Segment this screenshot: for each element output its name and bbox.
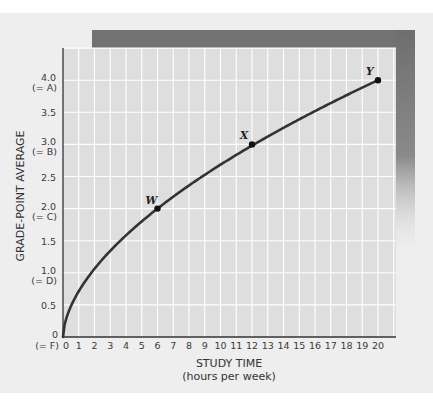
y-tick-label: 1.5 (41, 236, 56, 247)
point-label-x: X (239, 129, 249, 141)
x-tick-label: 5 (139, 340, 145, 351)
x-tick-label: 19 (356, 340, 368, 351)
x-tick-label: 15 (293, 340, 305, 351)
x-tick-label: 16 (309, 340, 321, 351)
x-tick-label: 13 (262, 340, 274, 351)
y-tick-label: 2.5 (41, 172, 56, 183)
point-w (154, 205, 160, 211)
x-tick-label: 18 (340, 340, 352, 351)
y-tick-sublabel: (= C) (32, 211, 57, 222)
x-tick-label: 2 (91, 340, 97, 351)
x-tick-label: 8 (186, 340, 192, 351)
x-tick-label: 1 (76, 340, 82, 351)
y-tick-sublabel: (= A) (32, 82, 57, 93)
shadow-top (92, 30, 415, 48)
x-tick-label: 4 (123, 340, 129, 351)
y-axis-title: GRADE-POINT AVERAGE (14, 130, 27, 261)
y-tick-sublabel: (= F) (35, 340, 59, 351)
x-tick-label: 3 (107, 340, 113, 351)
y-tick-label: 3.5 (41, 107, 56, 118)
x-tick-label: 14 (277, 340, 289, 351)
gpa-study-time-chart: 01234567891011121314151617181920 0(= F)0… (0, 0, 433, 401)
x-tick-labels: 01234567891011121314151617181920 (63, 340, 384, 351)
y-tick-sublabel: (= B) (32, 146, 57, 157)
x-tick-label: 9 (202, 340, 208, 351)
shadow-right (396, 30, 415, 260)
point-label-w: W (146, 194, 159, 206)
x-tick-label: 20 (372, 340, 384, 351)
x-tick-label: 11 (230, 340, 242, 351)
point-x (249, 141, 255, 147)
y-tick-labels: 0(= F)0.51.0(= D)1.52.0(= C)2.53.0(= B)3… (31, 72, 59, 351)
x-tick-label: 10 (214, 340, 226, 351)
vertical-gridlines (79, 48, 394, 337)
y-tick-label: 0 (52, 329, 58, 340)
point-y (375, 77, 381, 83)
x-axis-subtitle: (hours per week) (182, 370, 276, 383)
y-tick-sublabel: (= D) (31, 275, 57, 286)
x-axis-title: STUDY TIME (196, 357, 262, 370)
x-tick-label: 7 (170, 340, 176, 351)
x-tick-label: 17 (325, 340, 337, 351)
x-tick-label: 0 (63, 340, 69, 351)
x-tick-label: 6 (154, 340, 160, 351)
x-tick-label: 12 (246, 340, 258, 351)
y-tick-label: 0.5 (41, 300, 56, 311)
